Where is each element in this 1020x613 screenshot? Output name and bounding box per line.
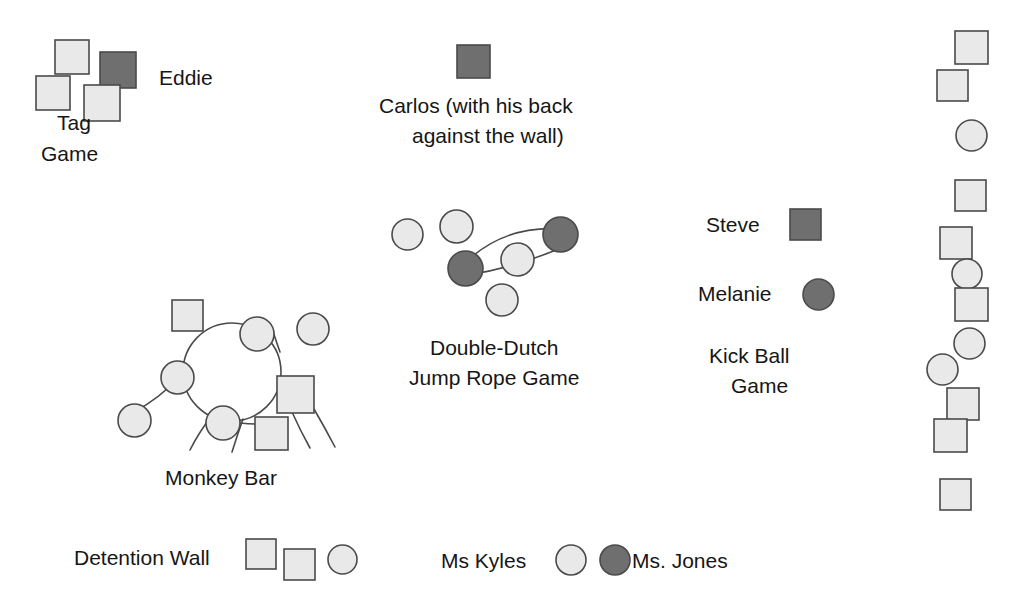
circle-light-kick-ball-10 <box>927 354 958 385</box>
label-double-dutch-line1: Double-Dutch <box>430 335 558 361</box>
square-light-monkey-bar-7 <box>255 417 288 450</box>
circle-light-monkey-bar-3 <box>161 361 194 394</box>
square-light-detention-wall-0 <box>246 539 276 569</box>
circle-light-monkey-bar-4 <box>118 404 151 437</box>
square-light-kick-ball-2 <box>955 31 988 64</box>
label-detention-wall: Detention Wall <box>74 545 210 571</box>
square-light-tag-game-0 <box>55 40 89 74</box>
group-double-dutch <box>392 210 578 316</box>
group-monkey-bar <box>118 300 335 452</box>
shapes-layer <box>0 0 1020 613</box>
group-carlos <box>457 45 490 78</box>
square-light-monkey-bar-0 <box>172 300 203 331</box>
square-light-monkey-bar-6 <box>277 376 314 413</box>
square-light-kick-ball-6 <box>940 227 972 259</box>
square-light-tag-game-2 <box>36 76 70 110</box>
circle-light-double-dutch-1 <box>440 210 473 243</box>
monkey-bar-tendril-3 <box>240 423 256 424</box>
label-kick-ball-line1: Kick Ball <box>709 343 790 369</box>
square-light-kick-ball-3 <box>937 70 968 101</box>
label-eddie: Eddie <box>159 65 213 91</box>
circle-dark-double-dutch-3 <box>448 251 483 286</box>
group-kick-ball <box>790 31 988 510</box>
circle-light-monkey-bar-1 <box>240 317 274 351</box>
circle-light-double-dutch-0 <box>392 219 423 250</box>
label-ms-jones: Ms. Jones <box>632 548 728 574</box>
square-light-kick-ball-5 <box>955 180 986 211</box>
circle-light-kick-ball-4 <box>956 120 987 151</box>
circle-dark-teacher-key-1 <box>600 545 630 575</box>
circle-light-monkey-bar-5 <box>206 406 240 440</box>
label-carlos-line2: against the wall) <box>412 123 564 149</box>
square-light-kick-ball-12 <box>934 419 967 452</box>
label-steve: Steve <box>706 212 760 238</box>
monkey-bar-tendril-4 <box>292 412 310 448</box>
label-ms-kyles: Ms Kyles <box>441 548 526 574</box>
label-kick-ball-line2: Game <box>731 373 788 399</box>
square-dark-carlos-0 <box>457 45 490 78</box>
circle-light-detention-wall-2 <box>328 545 357 574</box>
label-carlos-line1: Carlos (with his back <box>379 93 573 119</box>
circle-light-double-dutch-4 <box>501 243 534 276</box>
square-dark-tag-game-1 <box>100 52 136 88</box>
label-double-dutch-line2: Jump Rope Game <box>409 365 579 391</box>
label-tag-game-line1: Tag <box>57 110 91 136</box>
label-tag-game-line2: Game <box>41 141 98 167</box>
label-melanie: Melanie <box>698 281 772 307</box>
group-teacher-key <box>556 545 630 575</box>
circle-light-teacher-key-0 <box>556 545 586 575</box>
square-light-detention-wall-1 <box>284 549 315 580</box>
circle-light-kick-ball-9 <box>954 328 985 359</box>
label-monkey-bar: Monkey Bar <box>165 465 277 491</box>
circle-light-double-dutch-5 <box>486 284 518 316</box>
circle-light-kick-ball-7 <box>952 259 982 289</box>
square-light-kick-ball-11 <box>947 388 979 420</box>
group-tag-game <box>36 40 136 121</box>
monkey-bar-tendril-5 <box>314 409 335 447</box>
circle-dark-double-dutch-2 <box>543 217 578 252</box>
diagram-canvas: Tag Game Eddie Carlos (with his back aga… <box>0 0 1020 613</box>
circle-light-monkey-bar-2 <box>297 313 329 345</box>
square-light-kick-ball-13 <box>940 479 971 510</box>
square-light-kick-ball-8 <box>955 288 988 321</box>
circle-dark-kick-ball-1 <box>803 279 834 310</box>
group-detention-wall <box>246 539 357 580</box>
square-dark-kick-ball-0 <box>790 209 821 240</box>
